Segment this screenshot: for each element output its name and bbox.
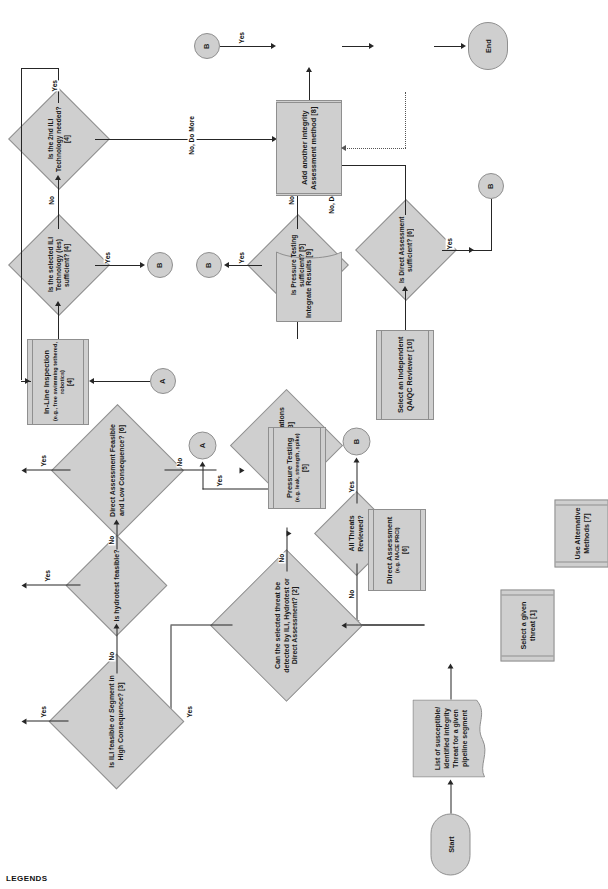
pressure-ref: [5]	[301, 464, 309, 472]
pressure-sub: (e.g. leak, strength, spike)	[294, 434, 301, 503]
node-second-ili: Is the 2nd ILI Technology needed? [4]	[23, 103, 95, 175]
edge-dasuff-nodomore-v	[405, 165, 406, 215]
select-reviewer-label: Select an Independent QA/QC Reviewer [10…	[396, 333, 414, 417]
edge-label-ilisuff-yes: Yes	[104, 252, 113, 263]
arrowhead	[55, 175, 61, 180]
arrowhead	[306, 67, 312, 72]
connector-b-integrate: B	[194, 33, 220, 59]
pressure-label: Pressure Testing	[285, 438, 294, 498]
edge-integrate-to-reviewer	[342, 46, 370, 47]
node-alt-methods-label: Use Alternative Methods [7]	[572, 502, 590, 564]
connector-b-integrate-label: B	[202, 43, 211, 48]
connector-b-right-label: B	[486, 183, 495, 188]
edge-label-2ndili-nodomore: No, Do More	[188, 116, 197, 155]
edge-ili-to-sufficient	[58, 306, 59, 339]
node-direct-assessment: Direct Assessment (e.g. NACE PRCI) [6]	[368, 509, 426, 591]
connector-a1: A	[150, 368, 176, 394]
second-ili-label: Is the 2nd ILI Technology needed? [4]	[23, 103, 95, 175]
da-label: Direct Assessment	[385, 516, 394, 583]
legends-caption: LEGENDS	[6, 874, 47, 883]
edge-2ndili-yes-h	[21, 68, 59, 69]
node-pressure-testing: Pressure Testing (e.g. leak, strength, s…	[268, 427, 326, 509]
edge-ilisuff-yes	[95, 265, 141, 266]
node-da-sufficient: Is Direct Assessment sufficient? [6]	[370, 214, 442, 286]
dotted-reviewer-down	[405, 92, 406, 148]
connector-b2-label: B	[204, 262, 213, 267]
edge-b-to-integrate	[220, 46, 272, 47]
edge-label-integrate-yes: Yes	[238, 32, 247, 43]
arrowhead	[369, 43, 374, 49]
node-select-reviewer: Select an Independent QA/QC Reviewer [10…	[376, 330, 434, 420]
inline-sub: (e.g., free swimming tethered, robotics)	[52, 342, 66, 422]
arrowhead	[461, 43, 466, 49]
node-ili-sufficient: Is the selected ILI Technology (ies) suf…	[23, 229, 95, 301]
da-ref: [6]	[401, 546, 409, 554]
edge-reviewer-to-end	[434, 46, 462, 47]
edge-dasuff-yes-riser	[491, 199, 492, 250]
arrowhead	[224, 262, 229, 268]
edge-label-presssuff-yes: Yes	[238, 252, 247, 263]
node-end-label: End	[484, 39, 493, 53]
edge-presssuff-yes	[228, 265, 262, 266]
connector-b1: B	[147, 252, 173, 278]
edge-2ndili-nodomore	[95, 139, 273, 140]
dotted-reviewer-left	[345, 148, 406, 149]
connector-b-right: B	[478, 173, 504, 199]
arrowhead	[89, 378, 94, 384]
arrowhead	[140, 262, 145, 268]
edge-addmethod-to-integrate	[309, 72, 310, 100]
da-sub: (e.g. NACE PRCI)	[394, 527, 401, 573]
edge-ilisuff-no	[58, 180, 59, 229]
arrowhead	[55, 301, 61, 306]
arrowhead	[271, 43, 276, 49]
ili-sufficient-label: Is the selected ILI Technology (ies) suf…	[23, 229, 95, 301]
edge-dasuff-yes-h2	[470, 250, 492, 251]
edge-a1-to-ili	[93, 381, 150, 382]
edge-2ndili-yes-down	[21, 68, 22, 380]
edge-dasuff-yes	[442, 250, 470, 251]
arrowhead	[402, 286, 408, 291]
node-alt-methods: Use Alternative Methods [7]	[554, 499, 608, 567]
da-sufficient-label: Is Direct Assessment sufficient? [6]	[370, 214, 442, 286]
inline-label: In-Line Inspection	[42, 350, 51, 414]
edge-label-presssuff-no: No	[288, 196, 297, 205]
inline-ref: [4]	[66, 378, 74, 386]
arrowhead-dotted	[341, 145, 346, 151]
add-method-label: Add another integrity Assessment method …	[300, 105, 319, 191]
node-inline-inspection-2: In-Line Inspection (e.g., free swimming …	[27, 339, 89, 425]
edge-label-2ndili-yes: Yes	[51, 80, 60, 91]
connector-a1-label: A	[158, 378, 167, 383]
arrowhead	[25, 378, 30, 384]
node-add-method: Add another integrity Assessment method …	[276, 100, 342, 196]
node-end: End	[468, 22, 508, 70]
connector-b2: B	[196, 252, 222, 278]
connector-b1-label: B	[155, 262, 164, 267]
integrate-results-label: Integrate Results [9]	[278, 244, 340, 322]
edge-label-dasuff-yes: Yes	[446, 238, 455, 249]
edge-label-ilisuff-no: No	[48, 196, 57, 205]
node-integrate-results: Integrate Results [9]	[276, 244, 342, 322]
